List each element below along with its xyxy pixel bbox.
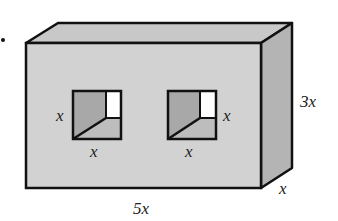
right-hole-width-label: x [184, 142, 193, 161]
prism-depth-label: x [278, 179, 287, 198]
right-square-hole [168, 91, 216, 139]
prism-top-face [26, 23, 292, 43]
bullet-dot [1, 38, 5, 42]
prism-diagram: x x x x 3x x 5x [0, 0, 338, 221]
right-hole-height-label: x [222, 106, 231, 125]
prism-length-label: 5x [133, 199, 150, 218]
left-hole-width-label: x [89, 142, 98, 161]
left-square-hole [73, 91, 121, 139]
prism-height-label: 3x [299, 92, 317, 111]
left-hole-height-label: x [55, 106, 64, 125]
prism-side-face [261, 23, 292, 188]
